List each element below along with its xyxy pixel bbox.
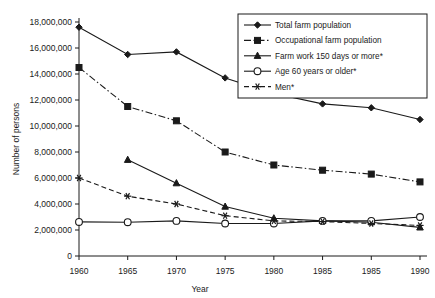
- x-tick-label: 1965: [118, 266, 137, 276]
- y-tick-label: 12,000,000: [29, 95, 72, 105]
- y-tick-label: 6,000,000: [34, 173, 72, 183]
- series-marker-1: [125, 104, 131, 110]
- series-marker-3: [417, 214, 424, 221]
- series-marker-1: [320, 167, 326, 173]
- series-marker-1: [173, 118, 179, 124]
- x-tick-label: 1985: [313, 266, 332, 276]
- series-marker-3: [173, 218, 180, 225]
- legend-label-3: Age 60 years or older*: [275, 67, 357, 76]
- series-marker-3: [124, 219, 131, 226]
- series-marker-0: [319, 101, 325, 107]
- series-marker-3: [222, 220, 229, 227]
- x-tick-label: 1990: [411, 266, 430, 276]
- series-marker-0: [173, 49, 179, 55]
- series-marker-0: [368, 105, 374, 111]
- x-tick-label: 1970: [167, 266, 186, 276]
- series-marker-3: [76, 219, 83, 226]
- series-marker-4: [124, 193, 131, 199]
- chart-canvas: 02,000,0004,000,0006,000,0008,000,00010,…: [0, 0, 435, 298]
- x-tick-label: 1975: [216, 266, 235, 276]
- series-marker-4: [222, 213, 229, 219]
- series-marker-2: [124, 156, 131, 162]
- legend-label-4: Men*: [275, 83, 295, 92]
- farm-population-line-chart: 02,000,0004,000,0006,000,0008,000,00010,…: [0, 0, 435, 298]
- y-axis-title: Number of persons: [11, 103, 21, 175]
- y-tick-label: 10,000,000: [29, 121, 72, 131]
- series-marker-1: [222, 149, 228, 155]
- y-tick-label: 18,000,000: [29, 17, 72, 27]
- series-marker-0: [417, 116, 423, 122]
- legend-label-1: Occupational farm population: [275, 36, 382, 45]
- legend-marker-3: [254, 68, 261, 75]
- y-tick-label: 8,000,000: [34, 147, 72, 157]
- series-marker-0: [76, 24, 82, 30]
- legend-label-2: Farm work 150 days or more*: [275, 52, 384, 61]
- x-tick-label: 1960: [70, 266, 89, 276]
- series-marker-0: [125, 51, 131, 57]
- x-axis-title: Year: [191, 284, 208, 294]
- series-marker-4: [173, 201, 180, 207]
- x-tick-label: 1985: [362, 266, 381, 276]
- y-tick-label: 0: [67, 251, 72, 261]
- series-marker-1: [368, 171, 374, 177]
- x-tick-label: 1980: [264, 266, 283, 276]
- y-tick-label: 14,000,000: [29, 69, 72, 79]
- y-tick-label: 2,000,000: [34, 225, 72, 235]
- y-tick-label: 4,000,000: [34, 199, 72, 209]
- y-tick-label: 16,000,000: [29, 43, 72, 53]
- legend-label-0: Total farm population: [275, 21, 351, 30]
- legend-marker-1: [255, 37, 261, 43]
- series-marker-1: [417, 179, 423, 185]
- series-marker-0: [222, 75, 228, 81]
- series-marker-1: [271, 162, 277, 168]
- series-marker-1: [76, 65, 82, 71]
